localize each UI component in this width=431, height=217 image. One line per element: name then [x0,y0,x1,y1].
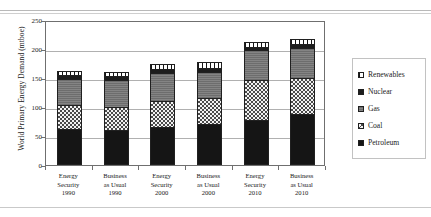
x-category-label-line: Business [275,172,329,181]
x-tick-mark [232,166,233,170]
bar-segment-gas[interactable] [244,50,269,80]
y-tick-label: 250 [2,18,42,25]
legend-item-nuclear[interactable]: Nuclear [358,83,421,100]
bar[interactable] [244,42,269,165]
gridline [46,138,324,139]
y-tick-label: 50 [2,134,42,141]
bar-segment-nuclear[interactable] [290,44,315,48]
x-tick-mark [325,166,326,170]
legend-item-coal[interactable]: Coal [358,117,421,134]
legend: RenewablesNuclearGasCoalPetroleum [352,58,426,159]
legend-item-petroleum[interactable]: Petroleum [358,134,421,151]
bar-segment-nuclear[interactable] [150,69,175,74]
bar-segment-renewables[interactable] [104,72,129,77]
legend-label: Gas [368,105,380,113]
bar[interactable] [104,72,129,165]
legend-swatch-icon [358,72,364,78]
x-category-label-line: 2010 [275,189,329,198]
bar-segment-petroleum[interactable] [57,129,82,165]
x-category-label-line: as Usual [275,181,329,190]
legend-swatch-icon [358,89,364,95]
bar-segment-coal[interactable] [290,78,315,114]
bar-segment-coal[interactable] [57,105,82,129]
stacked-bar-chart-figure: World Primary Energy Demand (mtboe) 0501… [0,0,431,217]
bar-segment-petroleum[interactable] [104,130,129,165]
bar[interactable] [57,71,82,165]
bar-segment-coal[interactable] [197,98,222,124]
bar-segment-gas[interactable] [150,73,175,101]
x-tick-mark [278,166,279,170]
bar-segment-renewables[interactable] [57,71,82,76]
legend-swatch-icon [358,123,364,129]
plot-area [45,21,325,166]
legend-swatch-icon [358,140,364,146]
bar[interactable] [197,62,222,165]
bar-segment-renewables[interactable] [150,64,175,69]
y-tick-label: 0 [2,163,42,170]
bar-segment-nuclear[interactable] [197,68,222,73]
x-tick-mark [92,166,93,170]
bar[interactable] [150,64,175,165]
gridline [46,51,324,52]
bar-segment-renewables[interactable] [244,42,269,47]
bar-segment-renewables[interactable] [197,62,222,68]
x-category-label: Businessas Usual2010 [275,172,329,198]
legend-swatch-icon [358,106,364,112]
bar-segment-petroleum[interactable] [197,124,222,165]
bar-segment-petroleum[interactable] [244,120,269,165]
y-tick-label: 150 [2,76,42,83]
bar-segment-coal[interactable] [150,101,175,127]
legend-label: Coal [368,122,382,130]
legend-label: Nuclear [368,88,392,96]
bar[interactable] [290,39,315,165]
x-tick-mark [185,166,186,170]
bar-segment-gas[interactable] [290,48,315,78]
bar-segment-gas[interactable] [197,72,222,98]
bar-segment-renewables[interactable] [290,39,315,44]
gridline [46,109,324,110]
x-tick-mark [45,166,46,170]
bar-segment-petroleum[interactable] [290,114,315,165]
bar-segment-coal[interactable] [244,80,269,119]
gridline [46,80,324,81]
x-tick-mark [138,166,139,170]
legend-item-gas[interactable]: Gas [358,100,421,117]
legend-label: Petroleum [368,139,399,147]
y-axis-title: World Primary Energy Demand (mtboe) [17,14,26,164]
y-tick-label: 200 [2,47,42,54]
bar-segment-petroleum[interactable] [150,127,175,165]
legend-label: Renewables [368,71,405,79]
y-tick-label: 100 [2,105,42,112]
bar-segment-gas[interactable] [57,79,82,105]
bar-segment-nuclear[interactable] [104,76,129,80]
bar-segment-coal[interactable] [104,107,129,130]
legend-item-renewables[interactable]: Renewables [358,66,421,83]
bar-segment-gas[interactable] [104,80,129,107]
bar-segment-nuclear[interactable] [57,75,82,79]
bar-segment-nuclear[interactable] [244,47,269,50]
